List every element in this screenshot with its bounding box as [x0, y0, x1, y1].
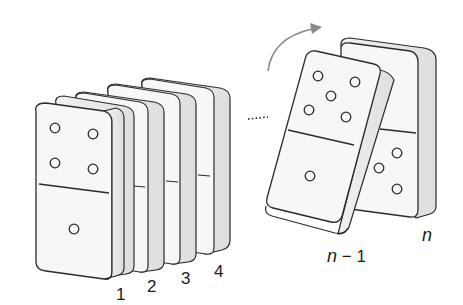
label-domino-n-minus-1: n − 1 [327, 246, 366, 266]
label-domino-3: 3 [181, 269, 190, 288]
label-domino-2: 2 [147, 277, 156, 296]
label-domino-4: 4 [214, 262, 223, 281]
label-domino-n: n [422, 225, 432, 245]
domino-diagram: 1 2 3 4 n − 1 n [0, 0, 463, 305]
domino-1-front [36, 103, 124, 279]
label-domino-1: 1 [116, 285, 125, 304]
ellipsis-dots [248, 117, 268, 119]
